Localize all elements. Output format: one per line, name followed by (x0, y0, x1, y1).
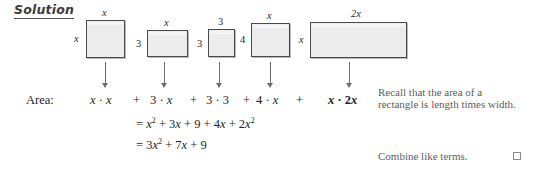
area-term-3: 3 · 3 (206, 93, 229, 107)
rect-highlight (312, 24, 405, 27)
area-term-1: x · x (90, 93, 112, 107)
rect-x-by-2x (310, 22, 407, 58)
area-plus-2: + (190, 93, 197, 107)
area-label: Area: (26, 93, 54, 107)
solution-figure-panel: Solution x x x 3 3 3 x 4 2x x (0, 0, 546, 173)
rect-highlight (88, 22, 123, 25)
rect-x-by-x (86, 20, 125, 58)
area-term-4: 4 · x (256, 93, 278, 107)
rect-x-by-2x-left-label: x (299, 34, 304, 45)
note-combine-like-terms: Combine like terms. (378, 150, 468, 163)
rect-3-by-x (147, 30, 188, 57)
rect-4-by-x (251, 23, 290, 57)
rect-x-by-x-left-label: x (74, 33, 79, 44)
area-term-2: 3 · x (150, 93, 172, 107)
rect-x-by-x-top-label: x (102, 7, 107, 18)
rect-highlight (253, 25, 288, 28)
rect-3-by-x-left-label: 3 (136, 38, 141, 49)
rect-4-by-x-left-label: 4 (240, 34, 245, 45)
rect-3-by-x-top-label: x (164, 17, 169, 28)
area-plus-1: + (133, 93, 140, 107)
note-recall-line-1: Recall that the area of a (378, 86, 482, 99)
equation-line-expand: = x2 + 3x + 9 + 4x + 2x2 (136, 117, 255, 131)
area-term-5: x · 2x (328, 93, 357, 107)
rect-3-by-3-top-label: 3 (218, 16, 223, 27)
rect-x-by-2x-top-label: 2x (351, 8, 361, 19)
solution-heading: Solution (14, 3, 74, 19)
equation-line-simplify: = 3x2 + 7x + 9 (136, 138, 207, 152)
area-plus-3: + (243, 93, 250, 107)
rect-highlight (210, 31, 233, 34)
rect-4-by-x-top-label: x (267, 10, 272, 21)
area-plus-4: + (296, 93, 303, 107)
qed-box-icon (513, 152, 521, 160)
rect-highlight (149, 32, 186, 35)
rect-3-by-3 (208, 29, 235, 57)
rect-3-by-3-left-label: 3 (197, 38, 202, 49)
note-recall-line-2: rectangle is length times width. (378, 98, 516, 111)
